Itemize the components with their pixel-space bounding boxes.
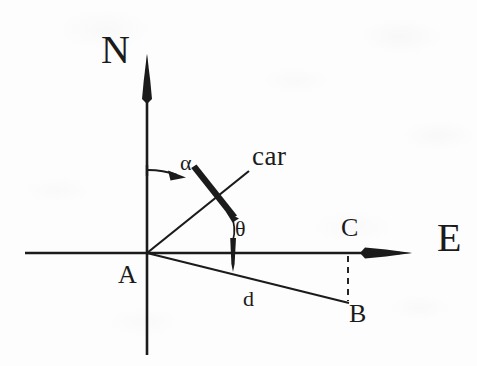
theta-reference-tick-arrow [230, 238, 236, 272]
point-label-c: C [341, 215, 358, 241]
north-axis-label: N [101, 30, 130, 70]
point-label-b: B [349, 301, 366, 327]
point-label-a: A [118, 262, 137, 288]
alpha-angle-label: α [180, 152, 192, 174]
car-label: car [252, 143, 286, 170]
diagram-canvas [0, 0, 477, 366]
theta-angle-label: θ [235, 218, 246, 240]
bearing-diagram-figure: N E A C B car α θ d [0, 0, 477, 366]
east-axis-label: E [437, 218, 461, 258]
distance-label: d [243, 288, 254, 310]
